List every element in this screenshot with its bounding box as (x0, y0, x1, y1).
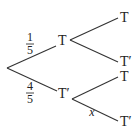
node-lower-label: T′ (58, 86, 70, 101)
leaf-upper-T: T (120, 10, 129, 25)
probability-tree-diagram: 1 5 4 5 T T′ x T T′ T T′ (0, 0, 138, 129)
edge-lower-to-Tprime (72, 99, 118, 121)
prob-upper-numerator: 1 (27, 30, 33, 44)
leaf-upper-Tprime: T′ (120, 54, 132, 69)
edge-upper-to-T (70, 18, 118, 40)
leaf-lower-Tprime: T′ (120, 114, 132, 129)
prob-upper-denominator: 5 (27, 43, 33, 57)
prob-lower-denominator: 5 (27, 92, 33, 106)
node-upper-label: T (58, 33, 67, 48)
prob-lower-numerator: 4 (27, 79, 33, 93)
prob-upper-fraction: 1 5 (26, 30, 34, 57)
prob-lower-Tprime-label: x (88, 105, 95, 119)
edge-upper-to-Tprime (70, 40, 118, 62)
prob-lower-fraction: 4 5 (26, 79, 34, 106)
leaf-lower-T: T (120, 69, 129, 84)
edge-lower-to-T (72, 77, 118, 99)
